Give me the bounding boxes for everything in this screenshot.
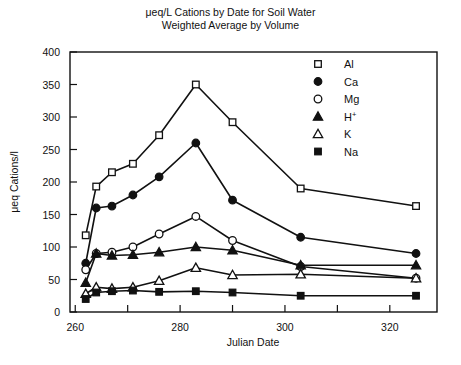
legend-label: Ca — [344, 76, 359, 88]
legend-item-mg[interactable]: Mg — [314, 93, 359, 105]
x-axis-ticks — [75, 305, 390, 312]
chart-canvas: 050100150200250300350400 260280300320 μe… — [0, 0, 461, 365]
legend-marker-h — [313, 112, 322, 120]
legend-label: H+ — [344, 110, 357, 123]
y-tick-label: 0 — [54, 306, 60, 318]
data-point — [82, 296, 89, 303]
data-point — [130, 161, 137, 168]
data-point — [297, 185, 304, 192]
y-tick-label: 50 — [48, 274, 60, 286]
data-point — [413, 292, 420, 299]
data-point — [129, 191, 137, 199]
series-na — [82, 287, 419, 302]
data-point — [193, 288, 200, 295]
data-point — [229, 196, 237, 204]
data-point — [193, 81, 200, 88]
legend-item-k[interactable]: K — [313, 128, 352, 140]
legend-item-h[interactable]: H+ — [313, 110, 357, 123]
y-tick-label: 400 — [42, 46, 60, 58]
data-point — [109, 169, 116, 176]
x-tick-label: 260 — [66, 321, 84, 333]
data-point — [155, 230, 163, 238]
data-point — [82, 266, 90, 274]
legend-marker-k — [313, 129, 322, 137]
legend-label: Mg — [344, 93, 359, 105]
data-point — [93, 183, 100, 190]
data-point — [93, 289, 100, 296]
data-point — [192, 139, 200, 147]
legend-marker-al — [315, 61, 322, 68]
data-point — [229, 119, 236, 126]
legend-marker-mg — [314, 95, 322, 103]
legend-item-na[interactable]: Na — [315, 146, 359, 158]
legend-marker-na — [315, 148, 322, 155]
chart-legend: AlCaMgH+KNa — [313, 58, 359, 158]
legend-label-superscript: + — [352, 110, 357, 119]
data-point — [108, 202, 116, 210]
chart-figure: μeq/L Cations by Date for Soil Water Wei… — [0, 0, 461, 365]
legend-marker-ca — [314, 78, 322, 86]
data-point — [413, 203, 420, 210]
series-al — [82, 81, 419, 238]
data-point — [82, 232, 89, 239]
x-axis-tick-labels: 260280300320 — [66, 321, 398, 333]
y-tick-label: 200 — [42, 176, 60, 188]
data-point — [412, 250, 420, 258]
y-axis-title: μeq Cations/l — [8, 151, 20, 213]
series-layer — [81, 81, 421, 302]
data-point — [130, 287, 137, 294]
legend-item-al[interactable]: Al — [315, 58, 354, 70]
data-point — [297, 233, 305, 241]
series-line — [86, 247, 416, 283]
plot-area-frame — [70, 52, 437, 312]
data-point — [229, 289, 236, 296]
x-tick-label: 280 — [171, 321, 189, 333]
legend-item-ca[interactable]: Ca — [314, 76, 359, 88]
y-tick-label: 350 — [42, 79, 60, 91]
data-point — [155, 173, 163, 181]
data-point — [81, 278, 90, 286]
x-axis-title: Julian Date — [227, 336, 280, 348]
y-axis-ticks — [70, 52, 77, 312]
data-point — [229, 237, 237, 245]
data-point — [156, 289, 163, 296]
data-point — [109, 288, 116, 295]
legend-label: Al — [344, 58, 354, 70]
data-point — [297, 292, 304, 299]
y-tick-label: 250 — [42, 144, 60, 156]
data-point — [191, 242, 200, 250]
y-tick-label: 100 — [42, 241, 60, 253]
data-point — [191, 263, 200, 271]
legend-label: K — [344, 128, 352, 140]
y-axis-tick-labels: 050100150200250300350400 — [42, 46, 60, 318]
y-tick-label: 150 — [42, 209, 60, 221]
data-point — [92, 204, 100, 212]
legend-label: Na — [344, 146, 359, 158]
data-point — [192, 213, 200, 221]
x-tick-label: 320 — [381, 321, 399, 333]
data-point — [156, 132, 163, 139]
y-tick-label: 300 — [42, 111, 60, 123]
x-tick-label: 300 — [276, 321, 294, 333]
